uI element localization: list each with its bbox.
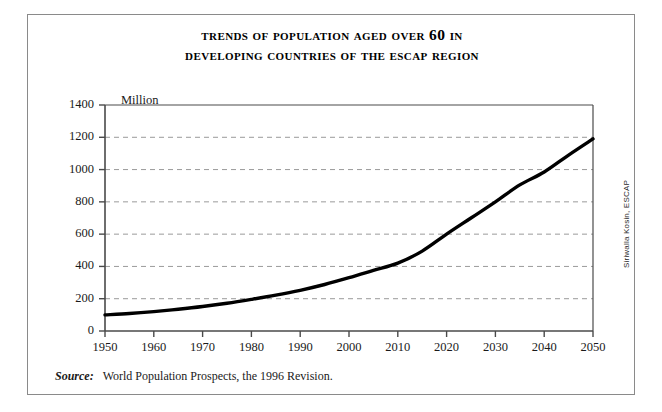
source-label: Source:: [55, 369, 94, 383]
x-axis-tick-label: 1990: [276, 340, 324, 355]
x-axis-tick-label: 1970: [179, 340, 227, 355]
gridlines-group: [105, 137, 593, 298]
y-axis-tick-label: 200: [50, 291, 94, 306]
x-axis-tick-label: 1960: [130, 340, 178, 355]
source-text: World Population Prospects, the 1996 Rev…: [103, 369, 333, 383]
axis-ticks-group: [99, 105, 593, 337]
y-axis-tick-label: 0: [50, 323, 94, 338]
x-axis-tick-label: 2000: [325, 340, 373, 355]
plot-area: 0200400600800100012001400 19501960197019…: [28, 15, 636, 396]
x-axis-tick-label: 1980: [227, 340, 275, 355]
y-axis-tick-label: 1000: [50, 162, 94, 177]
y-axis-tick-label: 1400: [50, 97, 94, 112]
y-axis-tick-label: 600: [50, 226, 94, 241]
x-axis-tick-label: 2030: [471, 340, 519, 355]
chart-canvas: [28, 15, 636, 396]
credit-text: Siriwalla Kosin, ESCAP: [622, 148, 631, 268]
x-axis-tick-label: 2010: [374, 340, 422, 355]
x-axis-tick-label: 2020: [423, 340, 471, 355]
data-series-line: [105, 139, 593, 315]
source-note: Source:World Population Prospects, the 1…: [55, 369, 333, 384]
x-axis-tick-label: 2040: [520, 340, 568, 355]
chart-figure: Trends of Population Aged over 60 in Dev…: [27, 14, 635, 395]
x-axis-tick-label: 2050: [569, 340, 617, 355]
y-axis-tick-label: 1200: [50, 129, 94, 144]
y-axis-tick-label: 400: [50, 258, 94, 273]
y-axis-tick-label: 800: [50, 194, 94, 209]
x-axis-tick-label: 1950: [81, 340, 129, 355]
